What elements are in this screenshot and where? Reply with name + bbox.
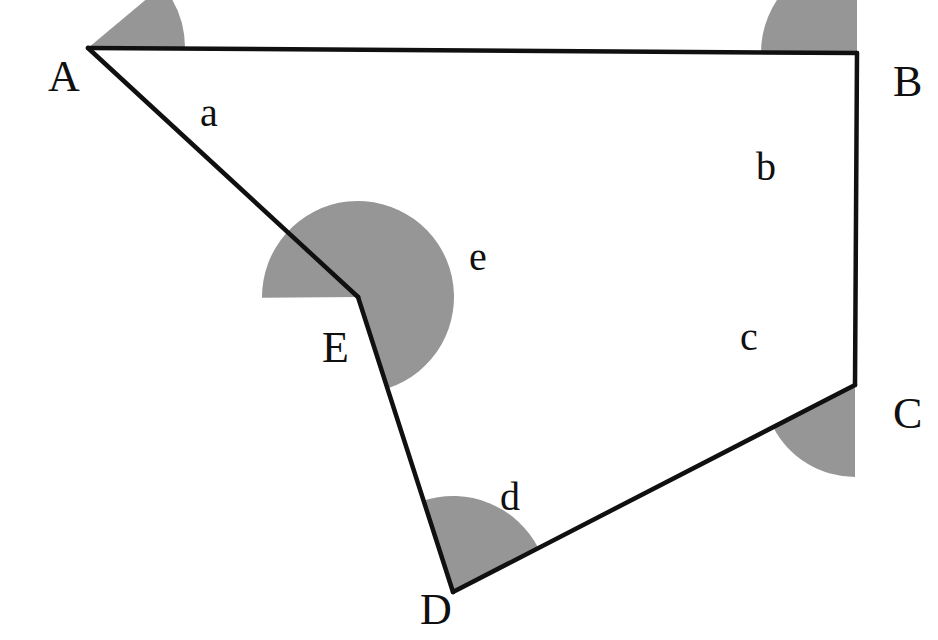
angle-e-label: e <box>469 237 487 277</box>
geometry-figure <box>0 0 938 640</box>
angle-c-label: c <box>740 317 758 357</box>
angle-b-sector <box>761 0 857 54</box>
angle-b-label: b <box>756 147 776 187</box>
vertex-label-D: D <box>420 588 452 632</box>
vertex-label-B: B <box>893 60 922 104</box>
edge-AB <box>88 48 857 53</box>
angle-sectors-group <box>88 0 857 592</box>
vertex-label-C: C <box>893 392 922 436</box>
edge-BC <box>855 53 857 385</box>
vertex-label-A: A <box>48 55 80 99</box>
angle-d-label: d <box>500 477 520 517</box>
angle-c-sector <box>773 385 855 477</box>
vertex-label-E: E <box>322 326 349 370</box>
angle-a-sector <box>88 0 185 48</box>
figure-canvas: ABCDE abcde <box>0 0 938 640</box>
angle-a-label: a <box>200 93 218 133</box>
edge-EA <box>88 48 358 297</box>
